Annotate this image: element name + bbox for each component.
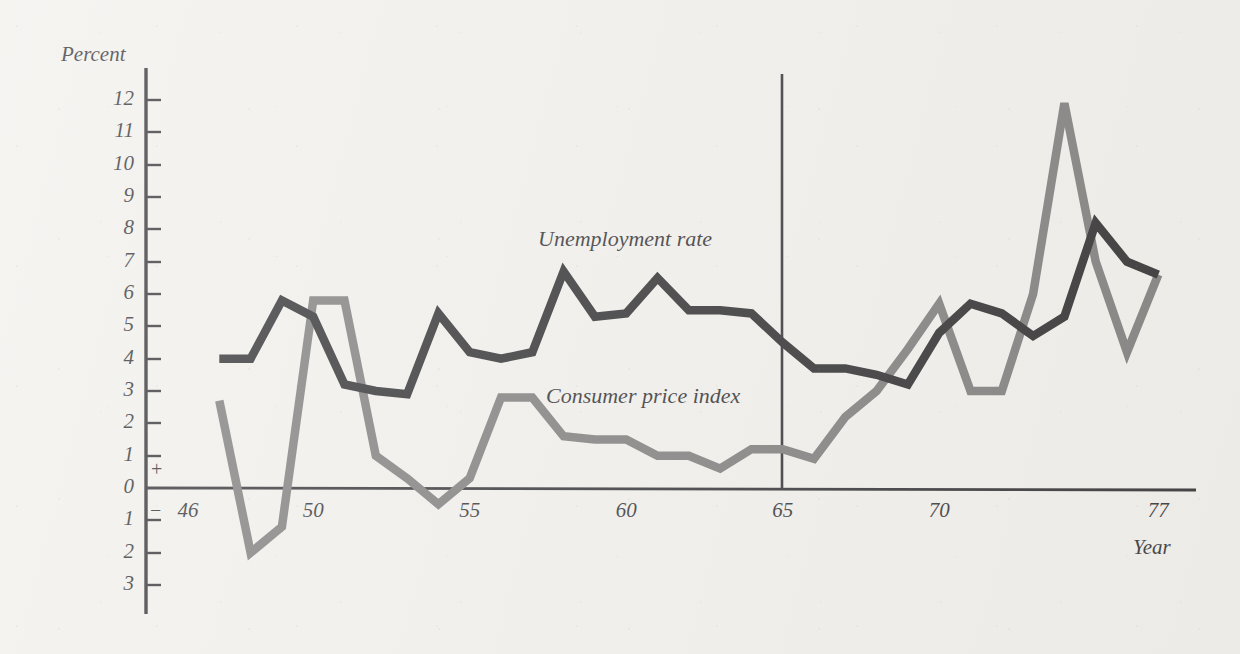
y-tick-label: 6: [104, 280, 134, 305]
y-tick-label: 3: [104, 377, 134, 402]
x-tick-label: 50: [283, 498, 343, 523]
series-annotation-unemployment-rate: Unemployment rate: [538, 226, 712, 252]
x-tick-label: 60: [596, 498, 656, 523]
y-tick-label: 4: [104, 345, 134, 370]
x-tick-label: 70: [909, 498, 969, 523]
chart-page: Percent Year + − 1211109876543210123 465…: [0, 0, 1240, 654]
x-axis-line: [146, 488, 1196, 490]
y-tick-label: 2: [104, 409, 134, 434]
x-tick-label: 77: [1128, 498, 1188, 523]
chart-plot-area: [0, 0, 1240, 654]
y-tick-label: 1: [104, 506, 134, 531]
y-tick-label: 11: [104, 118, 134, 143]
y-tick-label: 12: [104, 86, 134, 111]
y-tick-label: 9: [104, 183, 134, 208]
x-tick-label: 65: [753, 498, 813, 523]
y-tick-label: 8: [104, 215, 134, 240]
y-tick-label: 3: [104, 571, 134, 596]
x-axis-title: Year: [1133, 535, 1171, 560]
series-annotation-consumer-price-index: Consumer price index: [546, 383, 740, 409]
y-tick-label: 0: [104, 474, 134, 499]
positive-sign-mark: +: [151, 459, 162, 479]
y-axis-title: Percent: [61, 42, 126, 67]
y-tick-label: 5: [104, 312, 134, 337]
y-tick-label: 7: [104, 248, 134, 273]
y-tick-label: 2: [104, 539, 134, 564]
y-tick-label: 10: [104, 151, 134, 176]
x-tick-label: 46: [158, 498, 218, 523]
y-tick-label: 1: [104, 442, 134, 467]
x-tick-label: 55: [440, 498, 500, 523]
